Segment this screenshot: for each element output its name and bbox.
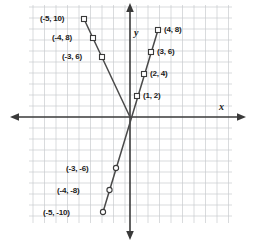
graph-canvas (0, 0, 256, 252)
point-label-4-8: (4, 8) (164, 25, 181, 34)
point-marker-neg5-10 (82, 17, 87, 22)
y-axis-arrow-down (126, 231, 134, 240)
point-marker-1-2 (135, 94, 140, 99)
x-axis-arrow-left (10, 113, 19, 121)
point-marker-neg3-6 (100, 55, 105, 60)
point-label-neg5-neg10: (-5, -10) (43, 208, 70, 217)
point-label-3-6: (3, 6) (157, 47, 174, 56)
point-label-1-2: (1, 2) (143, 91, 160, 100)
point-marker-3-6 (149, 50, 154, 55)
point-markers-lower-left (100, 165, 118, 214)
point-label-neg4-8: (-4, 8) (52, 33, 72, 42)
x-axis-label: x (219, 101, 224, 112)
point-label-neg3-6: (-3, 6) (62, 52, 82, 61)
point-label-neg4-neg8: (-4, -8) (57, 186, 79, 195)
point-marker-2-4 (142, 72, 147, 77)
y-axis-label: y (134, 27, 138, 38)
point-marker-neg5-neg10 (100, 209, 105, 214)
coordinate-plane-figure: y x (-5, 10) (-4, 8) (-3, 6) (4, 8) (3, … (0, 0, 256, 252)
point-marker-neg3-neg6 (113, 165, 118, 170)
point-label-neg3-neg6: (-3, -6) (66, 164, 88, 173)
point-marker-neg4-8 (91, 36, 96, 41)
point-label-neg5-10: (-5, 10) (40, 14, 64, 23)
point-marker-4-8 (156, 28, 161, 33)
point-markers-upper-left (82, 17, 105, 60)
y-axis-arrow-up (126, 3, 134, 12)
line-segment-negative-slope (84, 19, 130, 117)
x-axis-arrow-right (237, 113, 246, 121)
point-label-2-4: (2, 4) (150, 69, 167, 78)
point-marker-neg4-neg8 (107, 187, 112, 192)
axes (10, 3, 246, 240)
